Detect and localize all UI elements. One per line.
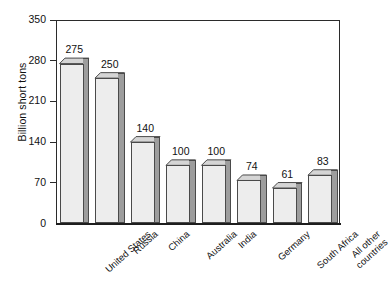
bar-front-face [308, 175, 332, 223]
bar-value-label: 83 [300, 155, 346, 167]
